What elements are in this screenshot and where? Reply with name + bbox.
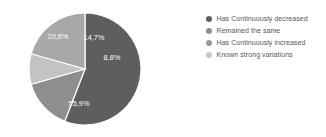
legend-item[interactable]: Known strong variations	[206, 49, 326, 61]
legend-item-label: Has Continuously decreased	[217, 16, 308, 23]
pie-slice-label: 55,9%	[69, 99, 90, 108]
pie-slice-label: 14,7%	[84, 33, 105, 42]
chart-legend: Has Continuously decreasedRemained the s…	[206, 13, 326, 61]
legend-item-label: Remained the same	[217, 28, 281, 35]
legend-item[interactable]: Has Continuously decreased	[206, 13, 326, 25]
legend-swatch-icon	[206, 52, 212, 58]
legend-item[interactable]: Remained the same	[206, 25, 326, 37]
pie-slice-label: 8,8%	[104, 53, 121, 62]
pie-slices-group	[29, 13, 141, 125]
legend-item-label: Has Continuously increased	[217, 40, 306, 47]
legend-item-label: Known strong variations	[217, 52, 293, 59]
legend-swatch-icon	[206, 28, 212, 34]
legend-swatch-icon	[206, 40, 212, 46]
pie-chart-figure: 55,9%14,7%8,8%20,6% Has Continuously dec…	[0, 0, 326, 137]
pie-plot-area: 55,9%14,7%8,8%20,6%	[0, 0, 180, 137]
pie-svg: 55,9%14,7%8,8%20,6%	[0, 0, 180, 137]
legend-swatch-icon	[206, 16, 212, 22]
pie-slice-label: 20,6%	[48, 32, 69, 41]
legend-item[interactable]: Has Continuously increased	[206, 37, 326, 49]
